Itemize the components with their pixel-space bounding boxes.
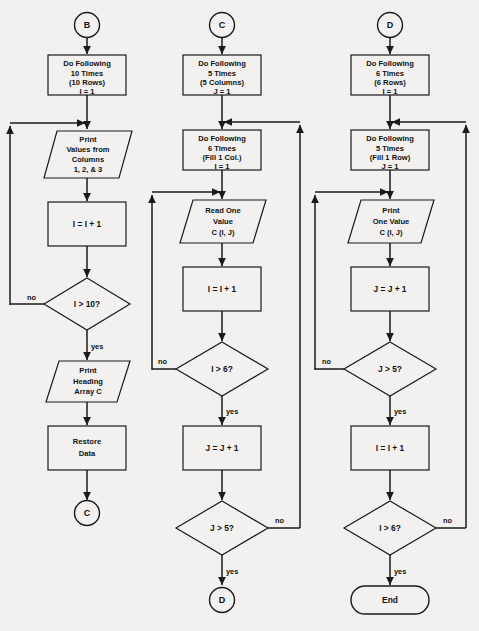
edge-b-dec1-yes-label: yes — [91, 342, 103, 351]
edge-d-dec1-yes-label: yes — [394, 407, 406, 416]
node-c-increment-j-label: J = J + 1 — [205, 443, 238, 453]
node-b-increment-i-label: I = I + 1 — [73, 219, 102, 229]
node-b-do-following-line4: I = 1 — [80, 87, 96, 96]
node-d-do-following-outer-line3: (6 Rows) — [374, 78, 406, 87]
node-c-do-following-outer-line3: (5 Columns) — [200, 78, 244, 87]
node-c-test-j-gt-5-label: J > 5? — [210, 523, 234, 533]
node-d-test-i-gt-6-label: I > 6? — [379, 523, 401, 533]
edge-d-dec2-yes-label: yes — [394, 567, 406, 576]
node-b-print-heading-line3: Array C — [74, 387, 102, 396]
node-c-do-following-inner-line2: 6 Times — [208, 144, 236, 153]
node-c-test-i-gt-6-label: I > 6? — [211, 364, 233, 374]
node-d-do-following-inner-line1: Do Following — [366, 134, 414, 143]
node-d-increment-j-label: J = J + 1 — [373, 284, 406, 294]
column-b-group: B Do Following 10 Times (10 Rows) I = 1 … — [10, 13, 132, 526]
node-d-do-following-inner-line3: (Fill 1 Row) — [370, 153, 411, 162]
node-c-do-following-outer-line4: J = 1 — [213, 87, 231, 96]
node-b-print-values-line2: Values from — [66, 145, 109, 154]
connector-b-end-label: C — [84, 508, 91, 518]
node-d-terminator-end-label: End — [382, 595, 398, 605]
node-b-restore-data-line1: Restore — [73, 437, 101, 446]
node-c-do-following-inner-line1: Do Following — [198, 134, 246, 143]
node-c-increment-i-label: I = I + 1 — [208, 284, 237, 294]
node-c-read-one-value-line1: Read One — [205, 206, 240, 215]
node-d-test-j-gt-5-label: J > 5? — [378, 364, 402, 374]
node-d-do-following-outer-line4: I = 1 — [383, 87, 399, 96]
node-c-read-one-value-line2: Value — [213, 217, 233, 226]
node-d-increment-i-label: I = I + 1 — [376, 443, 405, 453]
edge-c-dec2-no-label: no — [275, 516, 285, 525]
column-c-group: C Do Following 5 Times (5 Columns) J = 1… — [152, 13, 300, 613]
node-d-print-one-value-line3: C (I, J) — [379, 228, 403, 237]
node-c-do-following-outer-line1: Do Following — [198, 59, 246, 68]
node-c-do-following-inner-line3: (Fill 1 Col.) — [203, 153, 242, 162]
edge-c-dec1-yes-label: yes — [226, 407, 238, 416]
edge-c-dec1-no-label: no — [158, 357, 168, 366]
node-d-print-one-value-line2: One Value — [373, 217, 410, 226]
node-c-do-following-inner-line4: I = 1 — [215, 162, 231, 171]
node-c-read-one-value-line3: C (I, J) — [211, 228, 235, 237]
node-b-print-heading-line1: Print — [79, 366, 97, 375]
node-c-do-following-outer-line2: 5 Times — [208, 69, 236, 78]
edge-d-dec2-no-label: no — [443, 516, 453, 525]
node-d-do-following-inner-line4: J = 1 — [381, 162, 399, 171]
flowchart-canvas: B Do Following 10 Times (10 Rows) I = 1 … — [0, 0, 479, 631]
column-d-group: D Do Following 6 Times (6 Rows) I = 1 Do… — [315, 13, 466, 615]
node-b-do-following-line3: (10 Rows) — [69, 78, 105, 87]
node-b-print-heading-line2: Heading — [73, 377, 103, 386]
edge-c-dec2-yes-label: yes — [226, 567, 238, 576]
connector-b-start-label: B — [84, 20, 91, 30]
node-d-print-one-value-line1: Print — [382, 206, 400, 215]
node-d-do-following-inner-line2: 5 Times — [376, 144, 404, 153]
node-b-print-values-line1: Print — [79, 135, 97, 144]
flowchart-page: B Do Following 10 Times (10 Rows) I = 1 … — [0, 0, 479, 631]
node-b-do-following-line2: 10 Times — [71, 69, 103, 78]
node-d-do-following-outer-line1: Do Following — [366, 59, 414, 68]
edge-d-dec1-no-label: no — [322, 357, 332, 366]
connector-c-start-label: C — [219, 20, 226, 30]
node-b-test-i-gt-10-label: I > 10? — [74, 299, 100, 309]
edge-b-dec1-no-label: no — [27, 293, 37, 302]
node-b-do-following-line1: Do Following — [63, 59, 111, 68]
node-b-restore-data-line2: Data — [79, 449, 96, 458]
node-b-print-values-line4: 1, 2, & 3 — [74, 165, 103, 174]
node-d-do-following-outer-line2: 6 Times — [376, 69, 404, 78]
node-b-restore-data[interactable] — [48, 426, 126, 470]
connector-d-start-label: D — [387, 20, 394, 30]
node-b-print-values-line3: Columns — [72, 155, 105, 164]
connector-c-end-label: D — [219, 595, 226, 605]
